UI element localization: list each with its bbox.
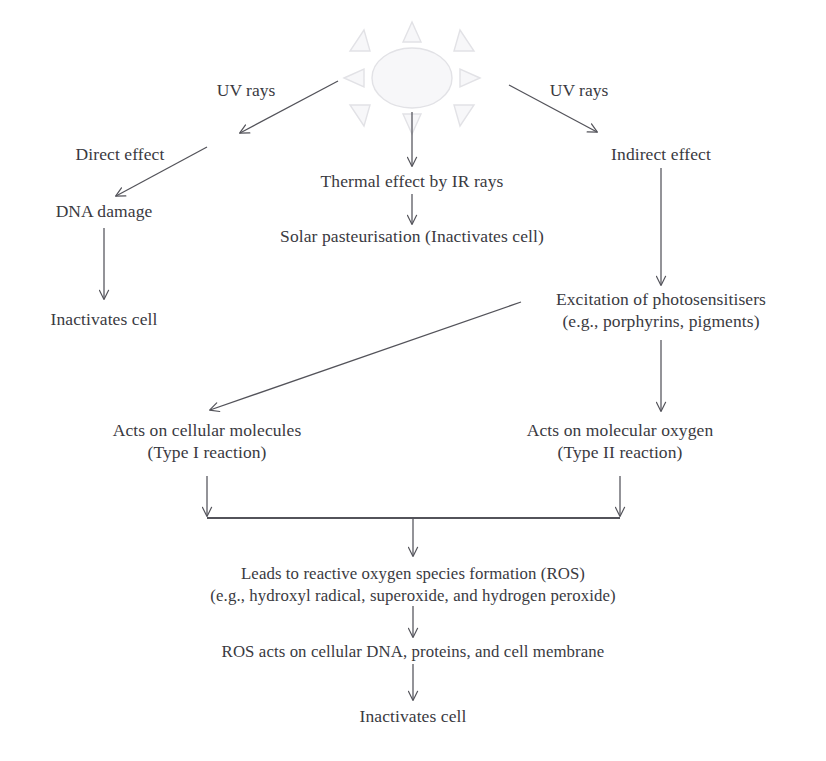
node-solar-pasteurisation: Solar pasteurisation (Inactivates cell) <box>280 225 544 247</box>
node-excitation-line-1: Excitation of photosensitisers <box>556 288 766 310</box>
node-dna-damage: DNA damage <box>56 200 153 222</box>
edge-label-uv-rays-left: UV rays <box>217 80 276 101</box>
node-thermal-effect: Thermal effect by IR rays <box>321 170 504 192</box>
solar-disinfection-flowchart: UV rays UV rays Direct effect DNA damage… <box>0 0 826 761</box>
node-indirect-effect: Indirect effect <box>611 143 711 165</box>
node-type-i-line-1: Acts on cellular molecules <box>113 419 302 441</box>
node-ros-formation-line-1: Leads to reactive oxygen species formati… <box>210 563 615 585</box>
edge-excitation-to-type-i <box>210 302 521 410</box>
node-excitation-of-photosensitisers: Excitation of photosensitisers (e.g., po… <box>556 288 766 333</box>
node-inactivates-cell-final: Inactivates cell <box>359 705 466 727</box>
node-ros-formation-line-2: (e.g., hydroxyl radical, superoxide, and… <box>210 585 615 607</box>
node-type-i-reaction: Acts on cellular molecules (Type I react… <box>113 419 302 464</box>
node-excitation-line-2: (e.g., porphyrins, pigments) <box>556 310 766 332</box>
node-inactivates-cell-left: Inactivates cell <box>50 308 157 330</box>
node-ros-formation: Leads to reactive oxygen species formati… <box>210 563 615 606</box>
node-type-ii-line-2: (Type II reaction) <box>527 441 714 463</box>
node-direct-effect: Direct effect <box>76 143 165 165</box>
edge-label-uv-rays-right: UV rays <box>550 80 609 101</box>
node-ros-acts-on-cell: ROS acts on cellular DNA, proteins, and … <box>222 641 605 663</box>
node-type-ii-line-1: Acts on molecular oxygen <box>527 419 714 441</box>
node-type-ii-reaction: Acts on molecular oxygen (Type II reacti… <box>527 419 714 464</box>
node-type-i-line-2: (Type I reaction) <box>113 441 302 463</box>
